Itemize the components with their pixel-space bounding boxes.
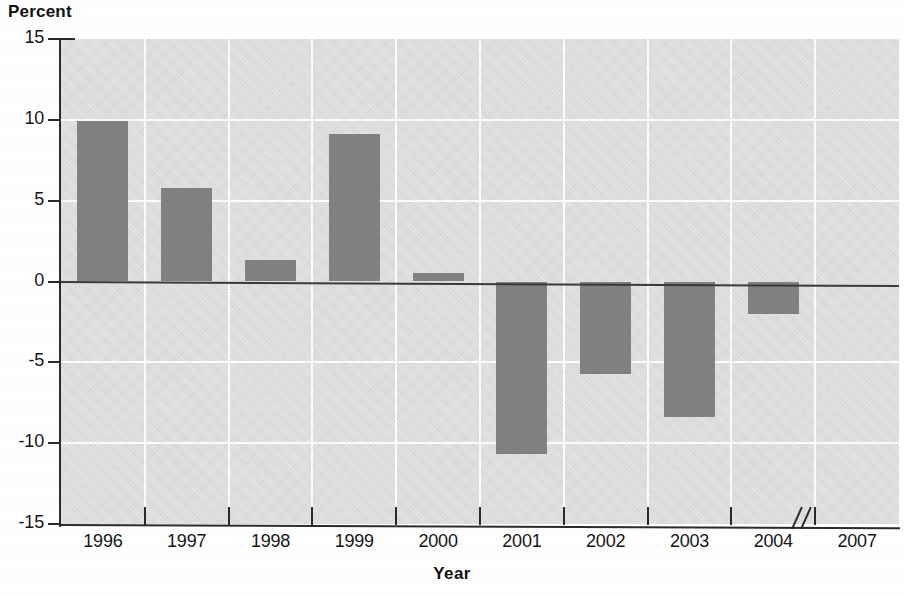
gridline-vertical [730, 39, 732, 524]
y-tick-label: 5 [0, 189, 44, 210]
x-tick-label-2003: 2003 [645, 531, 735, 552]
plot-area [61, 39, 899, 524]
x-tick-label-2001: 2001 [477, 531, 567, 552]
x-axis-title: Year [0, 564, 904, 584]
x-tick-label-1997: 1997 [142, 531, 232, 552]
y-tick [48, 200, 61, 202]
y-tick-label: 0 [0, 270, 44, 291]
y-tick-label: -10 [0, 431, 44, 452]
y-tick-label: 15 [0, 27, 44, 48]
x-tick-label-1998: 1998 [226, 531, 316, 552]
y-tick [48, 281, 61, 283]
axis-break-slash-2 [800, 507, 812, 530]
x-tick [647, 507, 649, 525]
y-tick [48, 442, 61, 444]
bar-1996 [77, 121, 128, 281]
x-tick-label-2002: 2002 [561, 531, 651, 552]
x-tick [395, 507, 397, 525]
y-axis-title: Percent [8, 2, 72, 22]
x-tick-label-1999: 1999 [309, 531, 399, 552]
x-tick [228, 507, 230, 525]
x-tick-label-2007: 2007 [812, 531, 902, 552]
bar-2003 [664, 282, 715, 418]
y-tick [48, 361, 61, 363]
y-tick [48, 119, 61, 121]
y-tick [48, 38, 61, 40]
x-tick [479, 507, 481, 525]
bar-2001 [496, 282, 547, 455]
x-tick-label-2004: 2004 [728, 531, 818, 552]
x-tick-label-2000: 2000 [393, 531, 483, 552]
gridline-vertical [479, 39, 481, 524]
y-axis-top-cap [59, 38, 75, 40]
y-tick-label: -5 [0, 350, 44, 371]
x-tick [144, 507, 146, 525]
gridline-vertical [647, 39, 649, 524]
axis-break-marker [792, 506, 818, 532]
bar-2002 [580, 282, 631, 374]
x-tick [563, 507, 565, 525]
bar-1998 [245, 260, 296, 281]
gridline-vertical [563, 39, 565, 524]
y-tick [48, 523, 61, 525]
x-tick [311, 507, 313, 525]
x-tick [730, 507, 732, 525]
y-tick-label: -15 [0, 512, 44, 533]
y-tick-label: 10 [0, 108, 44, 129]
gridline-vertical [395, 39, 397, 524]
x-tick-label-1996: 1996 [58, 531, 148, 552]
bar-1997 [161, 188, 212, 282]
gridline-vertical [814, 39, 816, 524]
bar-1999 [329, 134, 380, 281]
bar-2000 [413, 273, 464, 282]
bar-chart-figure: Percent 151050-5-10-15 19961997199819992… [0, 0, 904, 596]
